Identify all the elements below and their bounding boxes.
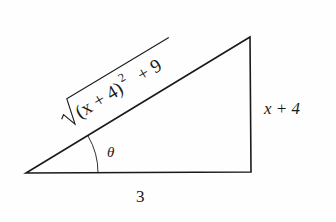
angle-arc <box>88 136 98 173</box>
hypotenuse-tail: + 9 <box>133 54 165 85</box>
adjacent-side-label: 3 <box>136 187 145 206</box>
opposite-side-label: x + 4 <box>263 99 301 118</box>
triangle-diagram: (x + 4) 2 + 9 x + 4 3 θ <box>0 0 336 222</box>
right-triangle <box>26 37 251 173</box>
diagram-svg: (x + 4) 2 + 9 x + 4 3 θ <box>0 0 336 222</box>
angle-label: θ <box>107 144 115 160</box>
